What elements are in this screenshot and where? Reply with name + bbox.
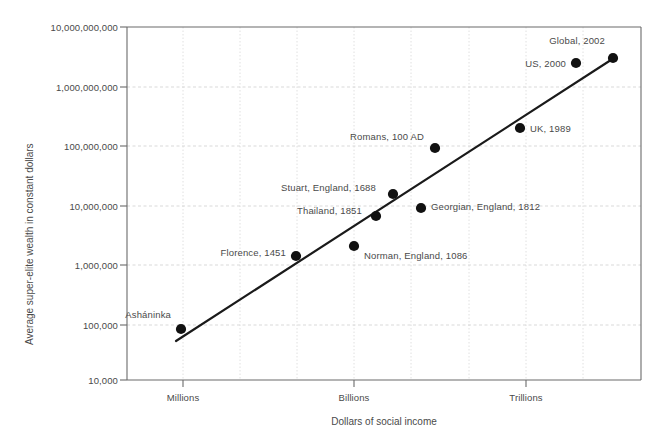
- data-point-label: Norman, England, 1086: [364, 250, 468, 261]
- y-tick-label-1e6: 1,000,000: [75, 260, 118, 271]
- x-tick-label-trillions: Trillions: [509, 392, 542, 403]
- data-point-label: Global, 2002: [549, 35, 605, 46]
- x-axis-ticks: [183, 380, 526, 387]
- x-tick-label-millions: Millions: [167, 392, 199, 403]
- data-point-label: Florence, 1451: [221, 247, 286, 258]
- data-point-label: Thailand, 1851: [297, 205, 362, 216]
- plot-frame: [127, 27, 641, 380]
- data-point-label: UK, 1989: [530, 123, 571, 134]
- data-point-marker[interactable]: [291, 251, 301, 261]
- data-point-label: Stuart, England, 1688: [281, 182, 376, 193]
- data-point-marker[interactable]: [515, 123, 525, 133]
- y-axis-ticks: [120, 27, 127, 380]
- data-point-marker[interactable]: [608, 53, 618, 63]
- data-point-label: Georgian, England, 1812: [431, 201, 540, 212]
- data-point-marker[interactable]: [416, 203, 426, 213]
- scatter-chart: 10,000,000,000 1,000,000,000 100,000,000…: [0, 0, 659, 434]
- data-point-label: Romans, 100 AD: [350, 131, 424, 142]
- y-tick-label-1e10: 10,000,000,000: [51, 22, 118, 33]
- data-point-marker[interactable]: [349, 241, 359, 251]
- data-point-label: Asháninka: [125, 309, 171, 320]
- data-point-marker[interactable]: [176, 324, 186, 334]
- x-tick-label-billions: Billions: [339, 392, 370, 403]
- y-tick-label-1e4: 10,000: [88, 375, 118, 386]
- data-point-markers: [176, 53, 618, 334]
- x-axis-title: Dollars of social income: [331, 416, 437, 427]
- data-point-label: US, 2000: [525, 58, 566, 69]
- trend-line: [176, 58, 614, 341]
- y-tick-label-1e8: 100,000,000: [64, 141, 118, 152]
- data-point-marker[interactable]: [430, 143, 440, 153]
- y-tick-label-1e7: 10,000,000: [69, 201, 118, 212]
- y-tick-label-1e5: 100,000: [83, 320, 118, 331]
- data-point-marker[interactable]: [571, 58, 581, 68]
- data-point-marker[interactable]: [388, 189, 398, 199]
- y-tick-label-1e9: 1,000,000,000: [56, 82, 118, 93]
- data-point-marker[interactable]: [371, 211, 381, 221]
- y-axis-title: Average super-elite wealth in constant d…: [24, 143, 35, 345]
